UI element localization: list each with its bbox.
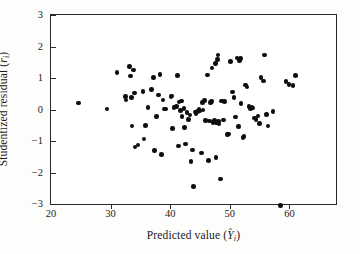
data-point xyxy=(264,112,269,117)
x-axis-tick-label: 30 xyxy=(105,209,116,220)
data-point xyxy=(199,151,204,156)
data-point xyxy=(216,53,221,58)
y-axis-title-suffix: ) xyxy=(0,52,9,56)
data-point xyxy=(124,98,129,103)
data-point xyxy=(232,95,237,100)
data-point xyxy=(293,73,298,78)
data-point xyxy=(214,155,219,160)
data-point xyxy=(158,72,163,77)
x-axis-tick-label: 60 xyxy=(284,209,295,220)
data-point xyxy=(152,148,157,153)
data-point xyxy=(161,98,166,103)
data-point xyxy=(130,124,135,129)
data-point xyxy=(236,124,241,129)
y-axis-tick xyxy=(51,173,56,174)
data-point xyxy=(151,75,156,80)
x-axis-tick-label: 20 xyxy=(46,209,57,220)
data-point xyxy=(261,79,266,84)
data-point xyxy=(238,56,243,61)
data-point xyxy=(233,115,238,120)
y-axis-tick xyxy=(51,141,56,142)
data-point xyxy=(209,99,214,104)
data-point xyxy=(131,68,136,73)
data-point xyxy=(230,90,235,95)
data-point xyxy=(149,87,154,92)
data-point xyxy=(189,159,194,164)
data-point xyxy=(221,118,226,123)
y-axis-title: Studentized residual (ri) xyxy=(0,11,11,207)
data-point xyxy=(186,117,191,122)
data-point xyxy=(191,184,196,189)
data-point xyxy=(141,89,146,94)
data-point xyxy=(278,203,283,208)
data-point xyxy=(215,57,220,62)
x-axis-title-prefix: Predicted value ( xyxy=(147,229,227,241)
data-point xyxy=(251,106,256,111)
data-points-layer xyxy=(51,15,336,204)
data-point xyxy=(154,114,159,119)
data-point xyxy=(105,107,110,112)
data-point xyxy=(242,134,247,139)
data-point xyxy=(217,122,222,127)
data-point xyxy=(271,109,276,114)
data-point xyxy=(291,83,296,88)
x-axis-tick-label: 50 xyxy=(225,209,236,220)
data-point xyxy=(179,99,184,104)
data-point xyxy=(245,85,250,90)
data-point xyxy=(256,114,261,119)
data-point xyxy=(128,74,133,79)
y-axis-tick-label: −3 xyxy=(32,199,43,210)
data-point xyxy=(132,91,137,96)
y-axis-tick xyxy=(51,78,56,79)
x-axis-title: Predicted value (Ŷi) xyxy=(50,229,337,243)
y-axis-tick xyxy=(51,110,56,111)
y-axis-title-prefix: Studentized residual ( xyxy=(0,63,9,167)
y-axis-tick-label: 3 xyxy=(38,10,43,21)
data-point xyxy=(156,93,161,98)
x-axis-title-suffix: ) xyxy=(236,229,240,241)
data-point xyxy=(210,66,215,71)
data-point xyxy=(142,137,147,142)
y-axis-title-var: r xyxy=(0,58,9,63)
data-point xyxy=(129,95,134,100)
data-point xyxy=(226,132,231,137)
data-point xyxy=(115,70,120,75)
y-axis-tick-label: 2 xyxy=(38,41,43,52)
data-point xyxy=(206,158,211,163)
scatter-plot-figure: 3210−1−2−32030405060 Predicted value (Ŷ… xyxy=(0,0,360,254)
data-point xyxy=(201,108,206,113)
data-point xyxy=(190,148,195,153)
y-axis-tick-label: −2 xyxy=(32,167,43,178)
data-point xyxy=(159,152,164,157)
y-axis-tick-label: 0 xyxy=(38,104,43,115)
data-point xyxy=(76,101,81,106)
y-axis-title-sub: i xyxy=(2,56,11,58)
data-point xyxy=(136,143,141,148)
data-point xyxy=(257,121,262,126)
data-point xyxy=(164,107,169,112)
data-point xyxy=(188,113,193,118)
data-point xyxy=(266,124,271,129)
data-point xyxy=(182,125,187,130)
y-axis-tick xyxy=(51,15,56,16)
y-hat-glyph: Ŷ xyxy=(227,229,234,241)
data-point xyxy=(205,73,210,78)
data-point xyxy=(239,101,244,106)
data-point xyxy=(143,123,148,128)
data-point xyxy=(222,99,227,104)
x-axis-tick-label: 40 xyxy=(165,209,176,220)
data-point xyxy=(176,144,181,149)
y-axis-tick-label: −1 xyxy=(32,136,43,147)
plot-frame: 3210−1−2−32030405060 xyxy=(50,14,337,205)
data-point xyxy=(180,114,185,119)
data-point xyxy=(170,94,175,99)
data-point xyxy=(183,142,188,147)
y-axis-tick xyxy=(51,204,56,205)
y-axis-tick xyxy=(51,47,56,48)
data-point xyxy=(170,126,175,131)
data-point xyxy=(202,98,207,103)
data-point xyxy=(175,73,180,78)
y-axis-tick-label: 1 xyxy=(38,73,43,84)
data-point xyxy=(228,59,233,64)
data-point xyxy=(218,177,223,182)
